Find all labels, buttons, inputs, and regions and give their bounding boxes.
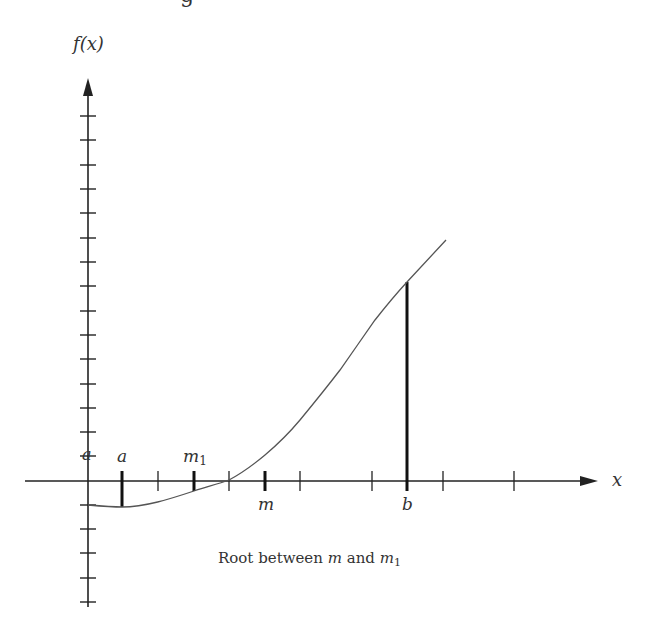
y-axis-arrow-icon: [83, 78, 93, 96]
x-axis-label: x: [612, 469, 622, 490]
figure-caption: Root between m and m1: [218, 549, 401, 569]
label-b: b: [402, 494, 413, 514]
cut-off-text-fragment: g: [180, 0, 194, 7]
label-a: a: [117, 446, 127, 466]
root-bisection-diagram: g f(x) a x: [0, 0, 652, 629]
y-axis-label: f(x): [71, 33, 104, 54]
function-curve: [88, 240, 446, 507]
hidden-a-label: a: [82, 445, 92, 464]
label-m: m: [258, 494, 274, 514]
x-axis-arrow-icon: [580, 476, 598, 486]
y-axis-ticks: [80, 116, 96, 602]
label-m1: m1: [183, 446, 207, 468]
